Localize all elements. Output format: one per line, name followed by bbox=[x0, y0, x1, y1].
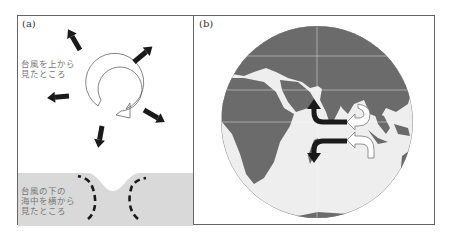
panel-b-label: (b) bbox=[199, 18, 213, 29]
panel-b-graphics bbox=[18, 16, 436, 226]
globe bbox=[221, 24, 428, 226]
figure-frame: (a) 台風を上から 見たところ 台風の下の 海中を横から 見たところ bbox=[17, 15, 435, 225]
